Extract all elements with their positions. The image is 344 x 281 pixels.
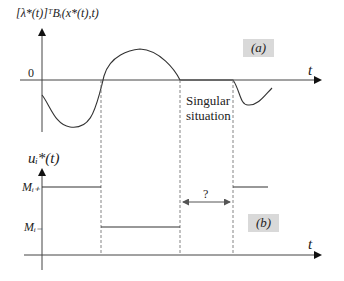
singular-label-line2: situation <box>186 108 231 124</box>
control-signal <box>42 187 268 227</box>
top-axes <box>20 30 320 132</box>
upper-level-label: Mᵢ₊ <box>22 180 40 195</box>
singular-label-line1: Singular <box>186 93 230 109</box>
top-y-axis-label: [λ*(t)]ᵀBᵢ(x*(t),t) <box>16 6 99 21</box>
diagram-canvas <box>0 0 344 281</box>
lower-level-label: Mᵢ₋ <box>24 220 42 235</box>
panel-b-tag: (b) <box>248 214 279 232</box>
top-t-label: t <box>308 62 312 79</box>
zero-label: 0 <box>28 66 34 81</box>
bottom-y-axis-label: uᵢ*(t) <box>28 150 60 167</box>
interval-label: ? <box>203 187 208 202</box>
panel-a-tag: (a) <box>243 39 274 57</box>
switching-function-curve <box>42 49 272 127</box>
bottom-t-label: t <box>308 236 312 253</box>
